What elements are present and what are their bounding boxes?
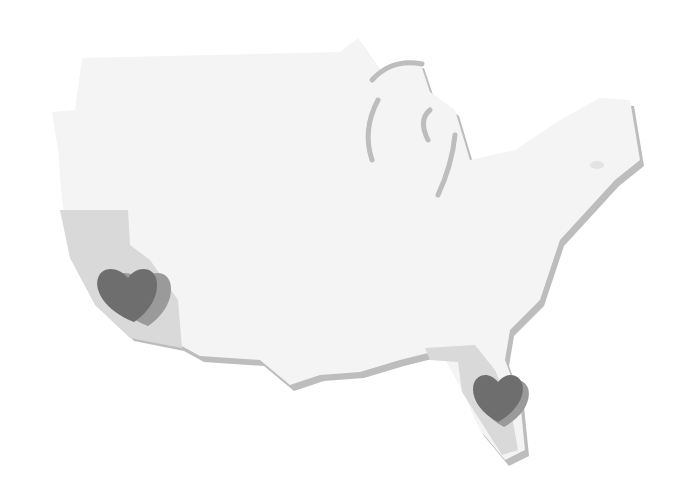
lake-detail (590, 161, 604, 169)
us-map-shape (52, 38, 640, 460)
us-map-illustration: United States map with heart markers (0, 0, 683, 494)
